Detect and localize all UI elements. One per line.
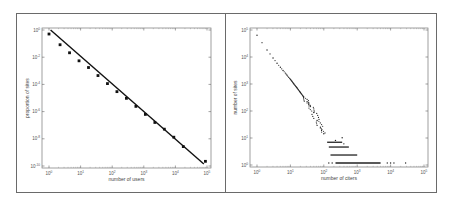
data-point [106,82,109,85]
data-point [387,162,388,163]
tick-label: 104 [387,169,394,175]
left-chart: 10010110210310410510010-210-410-610-810-… [24,27,211,183]
tick-label: 105 [241,27,248,33]
y-axis-title: number of sites [232,80,238,115]
data-point [59,43,62,46]
right-chart: 100101102103104105105104103102101100numb… [232,27,428,182]
tick-label: 10-4 [32,81,40,87]
data-point [331,162,332,163]
data-point [310,106,311,107]
data-point [87,66,90,69]
tick-label: 100 [46,170,53,176]
data-point [286,75,287,76]
data-point [405,162,406,163]
data-point [282,70,283,71]
tick-label: 101 [287,169,294,175]
tick-label: 104 [172,170,179,176]
data-point [393,162,394,163]
data-point [323,133,324,134]
data-point [341,137,342,138]
data-point [390,162,391,163]
tick-label: 10-6 [32,108,40,114]
x-axis-title: number of users [108,176,145,182]
tick-label: 105 [204,170,211,176]
tick-label: 100 [254,169,261,175]
axes-box [250,28,428,167]
tick-label: 10-10 [30,163,40,169]
chart-canvas: 10010110210310410510010-210-410-610-810-… [0,0,452,205]
fit-line [51,30,204,164]
data-point [78,59,81,62]
y-axis-title: proportion of sites [24,78,30,118]
tick-label: 105 [421,169,428,175]
data-point [280,67,281,68]
data-point [256,35,257,36]
tick-label: 10-2 [32,54,40,60]
data-point [97,74,100,77]
data-point [48,33,51,36]
tick-label: 104 [241,54,248,60]
data-point [266,49,267,50]
data-point [335,140,336,141]
data-point [328,162,329,163]
tick-label: 101 [77,170,84,176]
tick-label: 100 [33,27,40,33]
data-point [316,120,317,121]
tick-label: 10-8 [32,135,40,141]
data-point [285,72,286,73]
tick-label: 102 [241,108,248,114]
tick-label: 103 [241,81,248,87]
data-point [272,57,273,58]
x-axis-title: number of citers [321,175,357,181]
data-point [68,51,71,54]
data-point [306,101,307,102]
data-point [343,143,344,144]
data-point [116,90,119,93]
tick-label: 100 [241,162,248,168]
tick-label: 101 [241,135,248,141]
data-point [204,160,207,163]
data-point [276,63,277,64]
